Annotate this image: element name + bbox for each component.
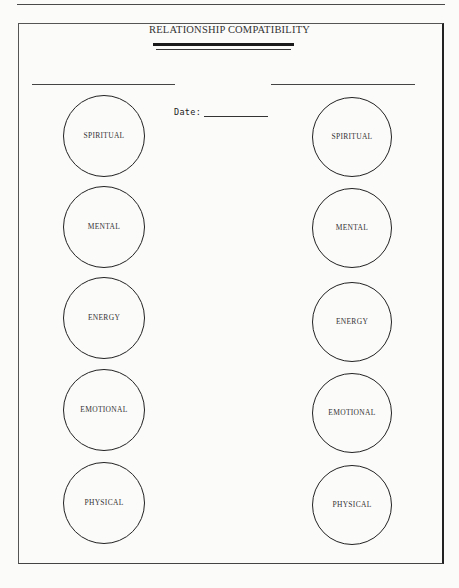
circle-label: ENERGY xyxy=(336,317,368,326)
worksheet-title: RELATIONSHIP COMPATIBILITY xyxy=(0,24,459,35)
circle-label: SPIRITUAL xyxy=(83,131,124,140)
person-b-emotional-circle[interactable]: EMOTIONAL xyxy=(312,373,392,453)
date-label: Date: xyxy=(174,107,201,117)
circle-label: SPIRITUAL xyxy=(331,132,372,141)
person-a-name-field[interactable] xyxy=(32,84,175,85)
date-field[interactable] xyxy=(204,107,268,117)
person-b-spiritual-circle[interactable]: SPIRITUAL xyxy=(312,97,392,177)
circle-label: EMOTIONAL xyxy=(328,408,375,417)
title-underline-thick xyxy=(153,43,294,46)
circle-label: EMOTIONAL xyxy=(80,405,127,414)
person-a-physical-circle[interactable]: PHYSICAL xyxy=(63,462,145,544)
circle-label: ENERGY xyxy=(88,313,120,322)
person-b-energy-circle[interactable]: ENERGY xyxy=(312,282,392,362)
circle-label: PHYSICAL xyxy=(332,500,371,509)
person-a-energy-circle[interactable]: ENERGY xyxy=(63,277,145,359)
person-a-mental-circle[interactable]: MENTAL xyxy=(63,186,145,268)
person-b-name-field[interactable] xyxy=(271,84,415,85)
person-a-spiritual-circle[interactable]: SPIRITUAL xyxy=(63,95,145,177)
date-row: Date: xyxy=(174,107,268,117)
person-b-mental-circle[interactable]: MENTAL xyxy=(312,188,392,268)
person-b-physical-circle[interactable]: PHYSICAL xyxy=(312,465,392,545)
page-header-rule xyxy=(17,4,445,5)
circle-label: PHYSICAL xyxy=(84,498,123,507)
circle-label: MENTAL xyxy=(88,222,120,231)
title-underline-thin xyxy=(156,49,291,50)
person-a-emotional-circle[interactable]: EMOTIONAL xyxy=(63,369,145,451)
circle-label: MENTAL xyxy=(336,223,368,232)
